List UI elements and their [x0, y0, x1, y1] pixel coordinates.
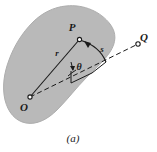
- label-point-p: P: [69, 21, 76, 33]
- figure-container: P Q O r s θ (a): [0, 0, 157, 152]
- point-marker-o: [28, 95, 32, 99]
- point-marker-p: [77, 37, 81, 41]
- geometry-diagram: P Q O r s θ (a): [0, 0, 157, 152]
- label-origin-o: O: [20, 101, 28, 113]
- label-angle-theta: θ: [76, 61, 82, 72]
- label-point-q: Q: [140, 31, 148, 43]
- label-radius-r: r: [55, 48, 59, 58]
- label-arc-s: s: [99, 44, 104, 54]
- figure-caption: (a): [67, 132, 80, 145]
